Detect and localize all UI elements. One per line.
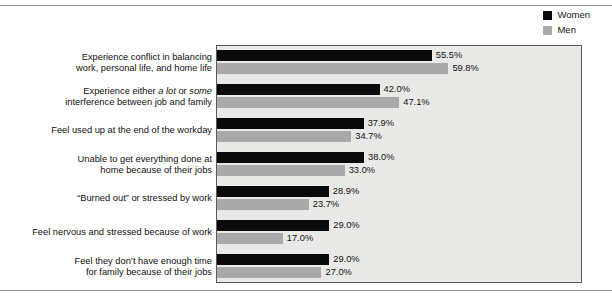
bar-rect-women xyxy=(217,50,432,61)
bar-rect-men xyxy=(217,233,283,244)
bar-women[interactable]: 29.0% xyxy=(217,220,360,231)
bar-value-label: 17.0% xyxy=(287,234,313,243)
category-label-text: for family because of their jobs xyxy=(86,267,212,277)
bar-rect-women xyxy=(217,152,364,163)
category-label-line: “Burned out” or stressed by work xyxy=(7,193,212,204)
category-label-emphasis: a lot xyxy=(158,86,176,96)
category-label-line: Feel they don’t have enough time xyxy=(7,256,212,267)
bar-pair: 55.5%59.8% xyxy=(217,46,612,80)
bar-value-label: 23.7% xyxy=(313,200,339,209)
category-label-line: home because of their jobs xyxy=(7,165,212,176)
bar-value-label: 29.0% xyxy=(333,221,359,230)
category-label-line: Feel nervous and stressed because of wor… xyxy=(7,227,212,238)
bar-group-row: “Burned out” or stressed by work28.9%23.… xyxy=(0,182,612,216)
bar-rect-women xyxy=(217,118,364,129)
bar-men[interactable]: 59.8% xyxy=(217,63,479,74)
bar-men[interactable]: 27.0% xyxy=(217,267,352,278)
category-label-emphasis: some xyxy=(189,86,212,96)
bar-value-label: 28.9% xyxy=(333,187,359,196)
bar-women[interactable]: 38.0% xyxy=(217,152,394,163)
category-label-line: for family because of their jobs xyxy=(7,267,212,278)
chart-legend: WomenMen xyxy=(543,9,590,36)
legend-label: Men xyxy=(557,25,575,35)
legend-item-women[interactable]: Women xyxy=(543,9,590,21)
bar-women[interactable]: 42.0% xyxy=(217,84,410,95)
bar-men[interactable]: 23.7% xyxy=(217,199,339,210)
bar-group-row: Unable to get everything done athome bec… xyxy=(0,148,612,182)
bar-value-label: 37.9% xyxy=(368,119,394,128)
category-label-text: Feel used up at the end of the workday xyxy=(51,125,212,135)
category-label: Feel they don’t have enough timefor fami… xyxy=(7,256,212,278)
bar-rect-women xyxy=(217,84,380,95)
bar-value-label: 42.0% xyxy=(384,85,410,94)
bar-pair: 29.0%17.0% xyxy=(217,216,612,250)
category-label-text: or xyxy=(176,86,189,96)
bar-group-row: Feel they don’t have enough timefor fami… xyxy=(0,250,612,284)
category-label-text: Feel nervous and stressed because of wor… xyxy=(32,227,212,237)
figure-root: WomenMen Experience conflict in balancin… xyxy=(0,0,612,300)
bar-value-label: 27.0% xyxy=(325,268,351,277)
bar-women[interactable]: 55.5% xyxy=(217,50,462,61)
bar-pair: 29.0%27.0% xyxy=(217,250,612,284)
category-label-text: work, personal life, and home life xyxy=(76,63,212,73)
category-label: Experience conflict in balancingwork, pe… xyxy=(7,52,212,74)
category-label-text: home because of their jobs xyxy=(100,165,212,175)
category-label-text: “Burned out” or stressed by work xyxy=(77,193,212,203)
top-divider-rule xyxy=(0,5,612,6)
bar-rect-women xyxy=(217,186,329,197)
category-label-line: Experience conflict in balancing xyxy=(7,52,212,63)
bar-rect-men xyxy=(217,165,345,176)
category-label-text: Unable to get everything done at xyxy=(78,154,212,164)
category-label: Feel nervous and stressed because of wor… xyxy=(7,227,212,238)
bar-women[interactable]: 37.9% xyxy=(217,118,394,129)
legend-swatch-men xyxy=(543,26,552,35)
category-label-text: Feel they don’t have enough time xyxy=(75,256,212,266)
bar-men[interactable]: 34.7% xyxy=(217,131,382,142)
bar-group-row: Feel used up at the end of the workday37… xyxy=(0,114,612,148)
bottom-divider-rule xyxy=(0,290,612,291)
bar-pair: 37.9%34.7% xyxy=(217,114,612,148)
category-label-text: interference between job and family xyxy=(65,97,212,107)
bar-value-label: 47.1% xyxy=(403,98,429,107)
bar-value-label: 29.0% xyxy=(333,255,359,264)
bar-value-label: 33.0% xyxy=(349,166,375,175)
bar-group-row: Experience conflict in balancingwork, pe… xyxy=(0,46,612,80)
bar-women[interactable]: 29.0% xyxy=(217,254,360,265)
bar-rect-men xyxy=(217,63,448,74)
category-label-line: work, personal life, and home life xyxy=(7,63,212,74)
category-label-line: Experience either a lot or some xyxy=(7,86,212,97)
bar-rect-women xyxy=(217,254,329,265)
category-label-text: Experience conflict in balancing xyxy=(82,52,212,62)
bar-rect-women xyxy=(217,220,329,231)
bar-pair: 38.0%33.0% xyxy=(217,148,612,182)
category-label: Feel used up at the end of the workday xyxy=(7,125,212,136)
bar-pair: 42.0%47.1% xyxy=(217,80,612,114)
legend-label: Women xyxy=(557,10,590,20)
legend-item-men[interactable]: Men xyxy=(543,24,575,36)
category-label-line: Feel used up at the end of the workday xyxy=(7,125,212,136)
bar-value-label: 59.8% xyxy=(452,64,478,73)
category-label: “Burned out” or stressed by work xyxy=(7,193,212,204)
bar-men[interactable]: 33.0% xyxy=(217,165,375,176)
legend-swatch-women xyxy=(543,11,552,20)
bar-value-label: 34.7% xyxy=(355,132,381,141)
bar-pair: 28.9%23.7% xyxy=(217,182,612,216)
bar-rect-men xyxy=(217,97,399,108)
bar-value-label: 55.5% xyxy=(436,51,462,60)
category-label-text: Experience either xyxy=(83,86,158,96)
category-label: Experience either a lot or someinterfere… xyxy=(7,86,212,108)
category-label-line: Unable to get everything done at xyxy=(7,154,212,165)
bar-women[interactable]: 28.9% xyxy=(217,186,359,197)
bar-group-row: Feel nervous and stressed because of wor… xyxy=(0,216,612,250)
bar-group-row: Experience either a lot or someinterfere… xyxy=(0,80,612,114)
category-label: Unable to get everything done athome bec… xyxy=(7,154,212,176)
bar-value-label: 38.0% xyxy=(368,153,394,162)
bar-rect-men xyxy=(217,131,351,142)
bar-men[interactable]: 17.0% xyxy=(217,233,313,244)
category-label-line: interference between job and family xyxy=(7,97,212,108)
bar-rect-men xyxy=(217,267,321,278)
bar-men[interactable]: 47.1% xyxy=(217,97,430,108)
bar-rect-men xyxy=(217,199,309,210)
